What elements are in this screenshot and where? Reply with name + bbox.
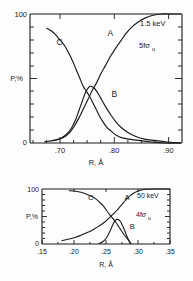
lower-curve-label-b: B (130, 222, 135, 231)
lower-ytick-0: 0 (35, 240, 39, 247)
svg-text:u: u (152, 46, 155, 52)
upper-panel: C A B 100 0 P,% .70 .80 .90 R, Å 1.5 keV… (0, 0, 193, 170)
lower-panel-y-ticks (42, 195, 47, 239)
lower-xtick-2: .25 (101, 248, 111, 255)
upper-curve-c (47, 28, 181, 143)
upper-annotation-energy: 1.5 keV (140, 19, 165, 28)
lower-xaxis-title: R, Å (99, 260, 113, 268)
lower-annotation-orbital: 4fσ u (136, 211, 151, 221)
svg-text:4fσ: 4fσ (136, 211, 147, 218)
upper-xtick-1: .80 (109, 146, 119, 155)
upper-curve-label-c: C (57, 37, 63, 47)
lower-curve-label-c: C (88, 193, 94, 202)
lower-ytick-100: 100 (27, 186, 39, 193)
upper-panel-plot: C A B 100 0 P,% .70 .80 .90 R, Å 1.5 keV… (0, 0, 193, 170)
figure-container: C A B 100 0 P,% .70 .80 .90 R, Å 1.5 keV… (0, 0, 193, 281)
lower-xtick-4: .35 (165, 248, 175, 255)
upper-curve-label-b: B (111, 89, 117, 99)
upper-xtick-2: .90 (163, 146, 173, 155)
upper-ytick-0: 0 (23, 138, 27, 147)
lower-panel-y-ticks-right (165, 195, 170, 239)
lower-xtick-1: .20 (69, 248, 79, 255)
lower-panel-x-ticks (42, 240, 170, 244)
lower-annotation-energy: 50 keV (137, 192, 159, 199)
upper-panel-frame (30, 14, 182, 143)
lower-panel-plot: C A B 100 0 P,% .15 .20 .25 .30 .35 R, Å… (0, 172, 193, 281)
upper-panel-y-ticks (30, 27, 37, 130)
upper-xaxis-title: R, Å (89, 158, 104, 167)
lower-curve-c (70, 191, 131, 244)
upper-annotation-orbital: 5fσ u (139, 41, 155, 52)
svg-text:u: u (148, 215, 151, 221)
lower-yaxis-title: P,% (26, 213, 38, 220)
upper-ytick-100: 100 (14, 10, 27, 19)
upper-yaxis-title: P,% (10, 74, 23, 83)
lower-panel: C A B 100 0 P,% .15 .20 .25 .30 .35 R, Å… (0, 172, 193, 281)
svg-text:5fσ: 5fσ (139, 41, 150, 50)
upper-panel-y-ticks-right (175, 27, 182, 130)
lower-xtick-3: .30 (133, 248, 143, 255)
upper-xtick-0: .70 (55, 146, 65, 155)
lower-curve-label-a: A (125, 193, 130, 202)
lower-xtick-0: .15 (37, 248, 47, 255)
upper-curve-label-a: A (108, 28, 114, 38)
